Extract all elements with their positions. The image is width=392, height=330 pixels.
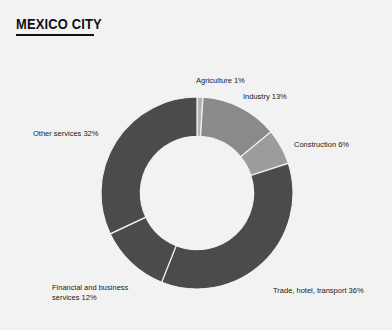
page-title: MEXICO CITY (16, 16, 102, 32)
donut-chart-svg (99, 95, 295, 291)
chart-card: MEXICO CITY Agriculture 1% Industry 13% … (0, 0, 392, 330)
donut-slice (162, 163, 293, 289)
slice-label-industry: Industry 13% (243, 92, 287, 102)
donut-slice (101, 97, 197, 234)
slice-label-construction: Construction 6% (294, 140, 349, 150)
donut-chart (99, 95, 295, 291)
title-underline-rule (16, 34, 94, 36)
slice-label-financial-business-services: Financial and business services 12% (52, 283, 148, 303)
slice-label-trade-hotel-transport: Trade, hotel, transport 36% (273, 286, 364, 296)
slice-label-agriculture: Agriculture 1% (196, 76, 245, 86)
donut-slice-group (101, 97, 293, 289)
slice-label-other-services: Other services 32% (33, 129, 98, 139)
